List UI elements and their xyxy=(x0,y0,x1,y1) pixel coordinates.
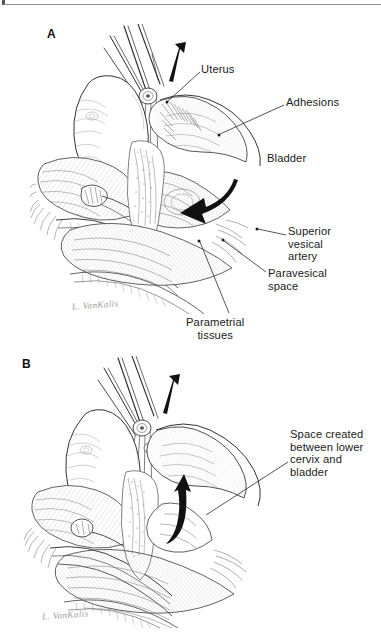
label-parametrial-tissues: Parametrial tissues xyxy=(186,316,244,341)
label-space-created: Space created between lower cervix and b… xyxy=(290,428,363,478)
label-paravesical-space: Paravesical space xyxy=(268,267,327,292)
traction-arrow xyxy=(169,42,186,82)
pelvic-floor-shading xyxy=(58,220,238,300)
panel-b-illustration xyxy=(22,356,272,628)
panel-letter-a: A xyxy=(47,28,56,40)
right-fascia-fan xyxy=(212,220,248,262)
panel-letter-b: B xyxy=(22,358,31,370)
label-superior-vesical-artery: Superior vesical artery xyxy=(288,225,331,263)
bladder-shading xyxy=(150,422,250,504)
label-adhesions: Adhesions xyxy=(286,96,339,109)
label-bladder: Bladder xyxy=(267,152,306,165)
label-uterus: Uterus xyxy=(201,63,235,76)
figure-page: A B Uterus Adhesions Bladder Superior ve… xyxy=(0,0,381,638)
page-top-rule xyxy=(4,4,381,5)
traction-arrow xyxy=(163,374,180,414)
panel-b-drawing xyxy=(24,356,260,628)
